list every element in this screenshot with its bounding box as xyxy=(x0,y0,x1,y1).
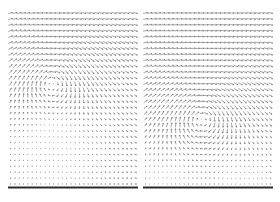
quiver-panel-left xyxy=(8,10,138,192)
quiver-panel-right xyxy=(143,10,273,192)
vector-arrows xyxy=(143,12,273,184)
quiver-plot xyxy=(143,10,273,192)
quiver-plot xyxy=(8,10,138,192)
vector-arrows xyxy=(8,12,137,184)
figure-canvas xyxy=(0,0,280,202)
